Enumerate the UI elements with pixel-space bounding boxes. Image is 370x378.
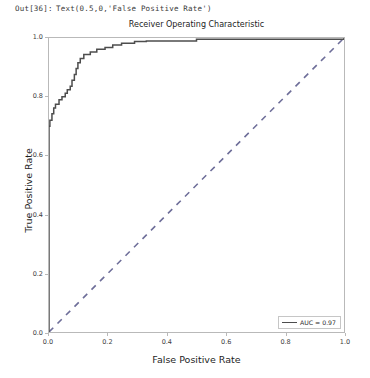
x-tick-mark	[226, 333, 227, 336]
x-tick-mark	[286, 333, 287, 336]
chance-diagonal-line	[49, 38, 344, 332]
y-tick-mark	[45, 96, 48, 97]
y-tick-mark	[45, 155, 48, 156]
legend-line-swatch	[282, 322, 297, 323]
x-tick-mark	[48, 333, 49, 336]
y-tick-mark	[45, 215, 48, 216]
x-tick-label: 0.6	[221, 338, 231, 346]
roc-figure: Receiver Operating Characteristic AUC = …	[0, 18, 370, 378]
y-tick-label: 0.0	[18, 329, 43, 337]
y-tick-label: 1.0	[18, 33, 43, 41]
y-tick-mark	[45, 333, 48, 334]
x-tick-mark	[345, 333, 346, 336]
x-axis-title: False Positive Rate	[48, 354, 345, 365]
legend-label-auc: AUC = 0.97	[300, 319, 336, 326]
chart-title: Receiver Operating Characteristic	[48, 20, 345, 29]
x-tick-label: 0.2	[102, 338, 112, 346]
x-tick-label: 0.0	[43, 338, 53, 346]
x-tick-label: 0.8	[280, 338, 290, 346]
y-axis-title: True Positive Rate	[23, 111, 34, 271]
x-tick-mark	[107, 333, 108, 336]
x-tick-label: 0.4	[162, 338, 172, 346]
output-prompt-label: Out[36]:	[15, 4, 53, 13]
output-text-value: Text(0.5,0,'False Positive Rate')	[56, 4, 212, 13]
y-tick-label: 0.2	[18, 270, 43, 278]
plot-canvas	[49, 38, 344, 332]
y-tick-label: 0.8	[18, 92, 43, 100]
legend-box: AUC = 0.97	[278, 316, 341, 329]
y-tick-mark	[45, 37, 48, 38]
plot-area: AUC = 0.97	[48, 37, 345, 333]
x-tick-label: 1.0	[340, 338, 350, 346]
y-tick-mark	[45, 274, 48, 275]
x-tick-mark	[167, 333, 168, 336]
